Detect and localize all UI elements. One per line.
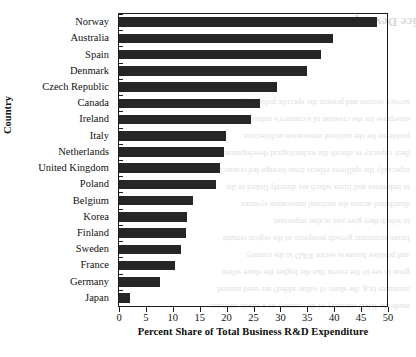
x-axis-tick-label: 5 bbox=[143, 312, 148, 323]
x-axis-tick-label: 40 bbox=[329, 312, 340, 323]
y-axis-title: Country bbox=[2, 96, 13, 134]
bar-row bbox=[119, 160, 388, 176]
y-axis-tick bbox=[118, 274, 123, 275]
bar-france bbox=[119, 261, 175, 271]
bar-czech-republic bbox=[119, 82, 277, 92]
y-axis-label: Norway bbox=[75, 16, 109, 27]
x-axis-ticks: 05101520253035404550 bbox=[0, 307, 410, 327]
bar-row bbox=[119, 209, 388, 225]
bar-row bbox=[119, 176, 388, 192]
y-axis-label: Belgium bbox=[73, 195, 109, 206]
y-axis-label: Denmark bbox=[70, 65, 109, 76]
bar-row bbox=[119, 95, 388, 111]
bar-row bbox=[119, 274, 388, 290]
y-axis-tick bbox=[118, 111, 123, 112]
y-axis-label: Netherlands bbox=[58, 146, 109, 157]
bar-netherlands bbox=[119, 147, 224, 157]
y-axis-label: Czech Republic bbox=[42, 81, 109, 92]
bar-row bbox=[119, 111, 388, 127]
x-axis-tick-label: 15 bbox=[194, 312, 205, 323]
bar-row bbox=[119, 46, 388, 62]
x-axis-tick-label: 50 bbox=[383, 312, 394, 323]
y-axis-tick bbox=[118, 290, 123, 291]
y-axis-tick bbox=[118, 160, 123, 161]
bar-korea bbox=[119, 212, 187, 222]
bar-belgium bbox=[119, 196, 193, 206]
y-axis-tick bbox=[118, 128, 123, 129]
x-axis-tick-label: 45 bbox=[356, 312, 367, 323]
y-axis-tick bbox=[118, 46, 123, 47]
x-axis-tick-label: 30 bbox=[275, 312, 286, 323]
bar-sweden bbox=[119, 245, 181, 255]
y-axis-tick bbox=[118, 209, 123, 210]
bar-row bbox=[119, 79, 388, 95]
y-axis-label: Korea bbox=[83, 211, 109, 222]
y-axis-label: Germany bbox=[70, 276, 109, 287]
bar-canada bbox=[119, 99, 260, 109]
x-axis-tick-label: 25 bbox=[248, 312, 259, 323]
y-axis-category-labels: NorwayAustraliaSpainDenmarkCzech Republi… bbox=[0, 14, 115, 306]
y-axis-tick bbox=[118, 144, 123, 145]
bar-row bbox=[119, 30, 388, 46]
bar-norway bbox=[119, 17, 377, 27]
bar-row bbox=[119, 257, 388, 273]
y-axis-tick bbox=[118, 79, 123, 80]
x-axis-tick-label: 10 bbox=[168, 312, 179, 323]
bar-row bbox=[119, 14, 388, 30]
bar-row bbox=[119, 290, 388, 306]
y-axis-label: Japan bbox=[85, 292, 109, 303]
bar-poland bbox=[119, 180, 216, 190]
x-axis-title: Percent Share of Total Business R&D Expe… bbox=[118, 326, 388, 337]
x-axis-tick-label: 20 bbox=[221, 312, 232, 323]
y-axis-tick bbox=[118, 225, 123, 226]
bar-denmark bbox=[119, 66, 307, 76]
y-axis-label: Finland bbox=[77, 227, 109, 238]
y-axis-label: France bbox=[80, 259, 109, 270]
bar-germany bbox=[119, 277, 160, 287]
y-axis-label: Poland bbox=[80, 178, 109, 189]
y-axis-tick bbox=[118, 192, 123, 193]
x-axis-tick-label: 0 bbox=[116, 312, 121, 323]
y-axis-label: Canada bbox=[78, 97, 110, 108]
y-axis-tick bbox=[118, 176, 123, 177]
y-axis-tick bbox=[118, 257, 123, 258]
y-axis-tick bbox=[118, 14, 123, 15]
bar-ireland bbox=[119, 115, 251, 125]
bar-finland bbox=[119, 228, 186, 238]
y-axis-label: Italy bbox=[90, 130, 109, 141]
y-axis-tick bbox=[118, 95, 123, 96]
bar-united-kingdom bbox=[119, 163, 220, 173]
bar-row bbox=[119, 144, 388, 160]
y-axis-tick bbox=[118, 63, 123, 64]
bar-row bbox=[119, 241, 388, 257]
bar-australia bbox=[119, 34, 333, 44]
bars-container bbox=[119, 14, 388, 306]
bar-row bbox=[119, 128, 388, 144]
x-axis-tick-label: 35 bbox=[302, 312, 313, 323]
bar-row bbox=[119, 192, 388, 208]
y-axis-tick bbox=[118, 30, 123, 31]
y-axis-tick bbox=[118, 241, 123, 242]
y-axis-label: United Kingdom bbox=[38, 162, 109, 173]
y-axis-label: Sweden bbox=[76, 243, 109, 254]
y-axis-label: Australia bbox=[71, 32, 110, 43]
bar-japan bbox=[119, 293, 130, 303]
bar-row bbox=[119, 63, 388, 79]
bar-row bbox=[119, 225, 388, 241]
bar-spain bbox=[119, 50, 321, 60]
y-axis-label: Ireland bbox=[79, 113, 109, 124]
bar-italy bbox=[119, 131, 226, 141]
y-axis-label: Spain bbox=[85, 49, 109, 60]
